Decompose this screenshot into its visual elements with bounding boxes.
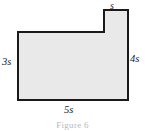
- dimension-label-left-3s: 3s: [2, 57, 11, 68]
- geometry-figure: s 3s 4s 5s Figure 6: [0, 0, 145, 131]
- dimension-label-right-4s: 4s: [130, 54, 139, 65]
- dimension-label-top-s: s: [110, 1, 114, 11]
- composite-polygon-shape: [18, 10, 128, 100]
- figure-caption: Figure 6: [0, 121, 145, 131]
- dimension-label-bottom-5s: 5s: [64, 105, 73, 116]
